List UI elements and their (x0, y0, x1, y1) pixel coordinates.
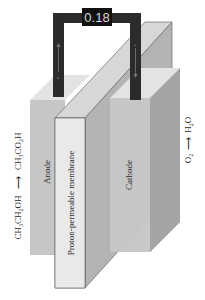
anode-reaction: CH3CH2OH ⟶ CH3CO2H (13, 132, 24, 240)
cathode-front (110, 68, 180, 252)
membrane-label: Proton-permeable membrane (66, 151, 76, 256)
cathode-label: Cathode (124, 160, 134, 190)
svg-text:CH3CH2OH ⟶ CH3CO2H: CH3CH2OH ⟶ CH3CO2H (13, 132, 24, 240)
svg-text:O2⟶H2O: O2⟶H2O (183, 116, 194, 163)
cathode-reaction: O2⟶H2O (183, 116, 194, 163)
anode-label: Anode (42, 160, 52, 184)
fuel-cell-diagram: e e 0.18 Anode Proton-permeable membrane… (0, 0, 205, 300)
meter-reading: 0.18 (84, 10, 109, 25)
voltmeter: 0.18 (82, 8, 112, 26)
